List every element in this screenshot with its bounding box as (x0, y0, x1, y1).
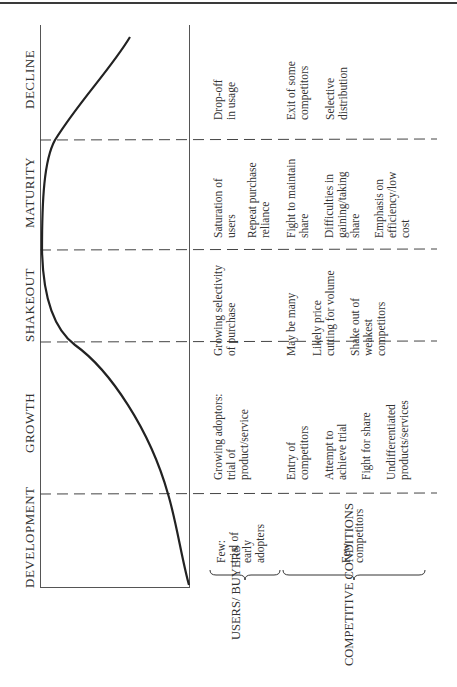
cell-users-maturity-2: Repeat purchase reliance (246, 138, 272, 238)
stage-label-development: DEVELOPMENT (22, 486, 38, 588)
cell-users-decline: Drop-off in usage (212, 40, 238, 120)
cell-competition-decline-2: Selective distribution (324, 30, 350, 120)
cell-competition-development: Few competitors (340, 493, 366, 563)
cell-competition-shakeout-3: Shake out of weakest competitors (349, 256, 388, 356)
cell-competition-maturity-2: Difficulties in gaining/taking share (323, 138, 362, 238)
cell-users-growth: Growing adoptors: trial of product/servi… (212, 370, 251, 480)
cell-competition-maturity-1: Fight to maintain share (285, 138, 311, 238)
cell-competition-growth-3: Fight for share (360, 380, 373, 480)
stage-label-decline: DECLINE (22, 50, 38, 109)
brace-users-buyers (210, 570, 280, 580)
category-competitive-conditions: COMPETITIVE CONDITIONS (342, 576, 356, 666)
cell-competition-shakeout-1: May be many (285, 256, 298, 356)
cell-competition-shakeout-2: Likely price cutting for volume (311, 246, 337, 356)
stage-label-maturity: MATURITY (22, 157, 38, 228)
cell-competition-decline-1: Exit of some competitors (285, 30, 311, 120)
stage-label-growth: GROWTH (22, 393, 38, 453)
category-users-buyers: USERS/ BUYERS (229, 570, 243, 640)
cell-users-maturity-1: Saturation of users (212, 138, 238, 238)
cell-competition-growth-1: Entry of competitors (285, 380, 311, 480)
cell-users-shakeout: Growing selectivity of purchase (212, 246, 238, 356)
cell-users-development: Few: trial of early adopters (215, 503, 267, 563)
stage-divider-growth (40, 493, 437, 494)
cell-competition-growth-2: Attempt to achieve trial (323, 380, 349, 480)
life-cycle-curve (42, 37, 189, 585)
stage-label-shakeout: SHAKEOUT (22, 268, 38, 342)
cell-competition-growth-4: Undifferentiated products/services (385, 370, 411, 480)
stage-divider-maturity (40, 249, 437, 250)
cell-competition-maturity-3: Emphasis on efficiency/low cost (373, 138, 412, 238)
